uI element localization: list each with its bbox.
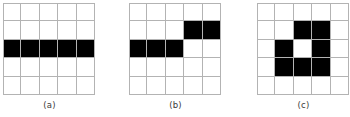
grid-cell-b-r5c2-empty (147, 77, 165, 95)
grid-cell-b-r4c3-empty (166, 58, 184, 76)
grid-cell-a-r2c2-empty (21, 21, 39, 39)
grid-cell-a-r2c4-empty (58, 21, 76, 39)
grid-cell-b-r2c1-empty (129, 21, 147, 39)
grid-cell-b-r4c1-empty (129, 58, 147, 76)
panel-label-c: (c) (257, 100, 350, 110)
grid-cell-c-r5c3-empty (294, 77, 312, 95)
panel-label-a: (a) (3, 100, 96, 110)
grid-cell-b-r1c3-empty (166, 3, 184, 21)
grid-cell-c-r3c1-empty (257, 40, 275, 58)
grid-cell-a-r3c3-filled (40, 40, 58, 58)
panel-label-b: (b) (129, 100, 222, 110)
grid-cell-b-r1c1-empty (129, 3, 147, 21)
pixel-grid-c (257, 3, 350, 96)
grid-cell-b-r1c2-empty (147, 3, 165, 21)
grid-cell-c-r4c3-filled (294, 58, 312, 76)
grid-cell-c-r2c2-empty (275, 21, 293, 39)
grid-cell-b-r3c5-empty (203, 40, 221, 58)
grid-cell-a-r1c1-empty (3, 3, 21, 21)
grid-cell-c-r1c1-empty (257, 3, 275, 21)
grid-cell-c-r2c3-filled (294, 21, 312, 39)
grid-cell-a-r4c3-empty (40, 58, 58, 76)
grid-cell-c-r2c5-empty (331, 21, 349, 39)
grid-cell-b-r5c4-empty (184, 77, 202, 95)
grid-cell-b-r5c1-empty (129, 77, 147, 95)
pixel-grid-b (129, 3, 222, 96)
grid-cell-a-r1c4-empty (58, 3, 76, 21)
grid-cell-c-r5c2-empty (275, 77, 293, 95)
grid-cell-b-r2c5-filled (203, 21, 221, 39)
grid-cell-c-r4c4-filled (312, 58, 330, 76)
grid-cell-c-r5c5-empty (331, 77, 349, 95)
grid-cell-c-r1c4-empty (312, 3, 330, 21)
grid-cell-a-r5c2-empty (21, 77, 39, 95)
grid-cell-b-r3c2-filled (147, 40, 165, 58)
grid-cell-b-r1c5-empty (203, 3, 221, 21)
grid-cell-c-r4c1-empty (257, 58, 275, 76)
grid-cell-b-r3c3-filled (166, 40, 184, 58)
grid-cell-b-r3c1-filled (129, 40, 147, 58)
grid-cell-a-r1c5-empty (77, 3, 95, 21)
grid-cell-c-r5c4-empty (312, 77, 330, 95)
grid-cell-b-r4c5-empty (203, 58, 221, 76)
pixel-grid-a (3, 3, 96, 96)
grid-cell-c-r3c4-filled (312, 40, 330, 58)
grid-cell-a-r4c4-empty (58, 58, 76, 76)
grid-cell-b-r4c4-empty (184, 58, 202, 76)
grid-cell-b-r4c2-empty (147, 58, 165, 76)
grid-cell-c-r2c4-filled (312, 21, 330, 39)
grid-cell-b-r2c4-filled (184, 21, 202, 39)
grid-cell-b-r1c4-empty (184, 3, 202, 21)
grid-cell-a-r4c5-empty (77, 58, 95, 76)
grid-cell-c-r4c5-empty (331, 58, 349, 76)
grid-cell-c-r2c1-empty (257, 21, 275, 39)
grid-cell-b-r5c5-empty (203, 77, 221, 95)
grid-cell-c-r3c3-empty (294, 40, 312, 58)
grid-cell-a-r3c2-filled (21, 40, 39, 58)
grid-cell-c-r1c3-empty (294, 3, 312, 21)
grid-cell-a-r3c1-filled (3, 40, 21, 58)
grid-cell-a-r1c3-empty (40, 3, 58, 21)
grid-cell-c-r1c5-empty (331, 3, 349, 21)
grid-cell-a-r4c1-empty (3, 58, 21, 76)
grid-cell-a-r3c5-filled (77, 40, 95, 58)
grid-cell-a-r2c3-empty (40, 21, 58, 39)
grid-cell-a-r4c2-empty (21, 58, 39, 76)
grid-cell-c-r1c2-empty (275, 3, 293, 21)
grid-cell-a-r5c4-empty (58, 77, 76, 95)
grid-cell-b-r3c4-empty (184, 40, 202, 58)
grid-cell-a-r5c3-empty (40, 77, 58, 95)
grid-cell-c-r3c2-filled (275, 40, 293, 58)
grid-cell-c-r3c5-empty (331, 40, 349, 58)
grid-cell-a-r3c4-filled (58, 40, 76, 58)
grid-cell-a-r5c5-empty (77, 77, 95, 95)
grid-cell-c-r4c2-filled (275, 58, 293, 76)
grid-cell-a-r2c1-empty (3, 21, 21, 39)
grid-cell-b-r5c3-empty (166, 77, 184, 95)
grid-cell-b-r2c3-empty (166, 21, 184, 39)
grid-cell-c-r5c1-empty (257, 77, 275, 95)
grid-cell-a-r1c2-empty (21, 3, 39, 21)
grid-cell-a-r2c5-empty (77, 21, 95, 39)
grid-cell-b-r2c2-empty (147, 21, 165, 39)
grid-cell-a-r5c1-empty (3, 77, 21, 95)
